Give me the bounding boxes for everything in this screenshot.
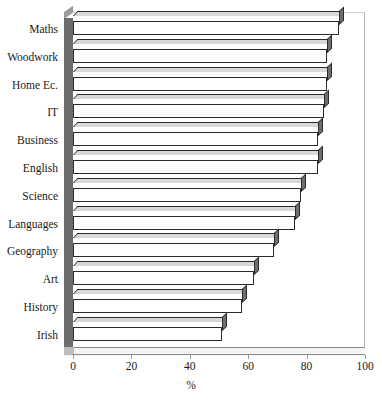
chart-left-wall [64, 18, 73, 348]
x-tick-label: 40 [170, 360, 210, 372]
x-tick-label: 80 [287, 360, 327, 372]
bar-side-face [339, 6, 344, 25]
x-tick [73, 355, 74, 359]
x-tick-label: 60 [228, 360, 268, 372]
bar-side-face [254, 257, 259, 276]
bar-art [73, 271, 254, 285]
y-axis-label: Irish [0, 322, 60, 350]
x-axis-title: % [0, 379, 382, 391]
x-tick-label: 0 [53, 360, 93, 372]
bar-home-ec [73, 77, 327, 91]
x-tick [248, 355, 249, 359]
bar-it [73, 104, 324, 118]
y-axis-label: Languages [0, 211, 60, 239]
x-axis-line [72, 354, 365, 355]
bar-top-face [73, 94, 329, 99]
y-axis-label: Geography [0, 238, 60, 266]
bar-woodwork [73, 49, 327, 63]
bar-business [73, 132, 318, 146]
bar-english [73, 160, 318, 174]
bar-top-face [73, 122, 323, 127]
bar-side-face [318, 118, 323, 137]
bar-top-face [73, 289, 247, 294]
x-tick [307, 355, 308, 359]
bar-top-face [73, 317, 226, 322]
y-axis-label: Business [0, 127, 60, 155]
y-axis-label: Science [0, 183, 60, 211]
bar-side-face [318, 145, 323, 164]
x-tick [365, 355, 366, 359]
x-tick [131, 355, 132, 359]
y-axis-label: History [0, 294, 60, 322]
y-axis-label: Home Ec. [0, 72, 60, 100]
chart-title-clipped [0, 0, 382, 7]
bar-top-face [73, 261, 259, 266]
bar-maths [73, 21, 339, 35]
bar-top-face [73, 150, 323, 155]
bar-chart: MathsWoodworkHome Ec.ITBusinessEnglishSc… [0, 0, 382, 402]
bar-series [73, 16, 365, 350]
bar-top-face [73, 67, 332, 72]
bar-history [73, 299, 242, 313]
y-axis-category-labels: MathsWoodworkHome Ec.ITBusinessEnglishSc… [0, 16, 60, 350]
bar-top-face [73, 178, 305, 183]
bar-side-face [295, 201, 300, 220]
y-axis-label: IT [0, 99, 60, 127]
x-tick-label: 20 [111, 360, 151, 372]
bar-top-face [73, 11, 343, 16]
bar-top-face [73, 39, 332, 44]
bar-side-face [324, 90, 329, 109]
bar-side-face [242, 284, 247, 303]
x-tick [190, 355, 191, 359]
bar-languages [73, 216, 295, 230]
bar-science [73, 188, 301, 202]
bar-geography [73, 243, 274, 257]
x-tick-label: 100 [345, 360, 382, 372]
bar-side-face [274, 229, 279, 248]
y-axis-label: Art [0, 266, 60, 294]
bar-side-face [222, 312, 227, 331]
y-axis-label: Woodwork [0, 44, 60, 72]
bar-top-face [73, 233, 279, 238]
bar-side-face [327, 62, 332, 81]
y-axis-label: Maths [0, 16, 60, 44]
bar-irish [73, 327, 222, 341]
bar-side-face [301, 173, 306, 192]
bar-side-face [327, 34, 332, 53]
y-axis-label: English [0, 155, 60, 183]
bar-row [73, 322, 365, 350]
bar-top-face [73, 206, 299, 211]
